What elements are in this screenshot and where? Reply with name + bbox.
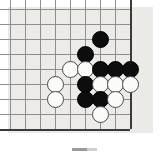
caption-mark-tail [87,148,97,151]
stone-black [77,46,94,63]
stone-white [122,76,139,93]
caption-mark [72,148,87,151]
stone-white [107,76,124,93]
stone-black [77,91,94,108]
grid-line-horizontal [0,114,130,115]
grid-line-vertical [25,0,26,129]
grid-line-vertical [40,0,41,129]
stone-black [77,76,94,93]
stone-white [107,91,124,108]
stone-white [77,61,94,78]
grid-line-horizontal [0,9,130,10]
go-diagram-figure [0,0,161,156]
stone-white [47,76,64,93]
grid-line-horizontal [0,54,130,55]
stone-black [107,61,124,78]
stone-white [92,76,109,93]
grid-line-vertical [10,0,11,129]
grid-line-vertical [55,0,56,129]
grid-line-horizontal [0,24,130,25]
grid-line-horizontal [0,39,130,40]
board-edge-bottom [0,129,130,131]
stone-black [92,61,109,78]
stone-white [47,91,64,108]
stone-black [122,61,139,78]
stone-white [62,61,79,78]
stone-black [92,31,109,48]
stone-white [92,106,109,123]
stone-black [92,91,109,108]
